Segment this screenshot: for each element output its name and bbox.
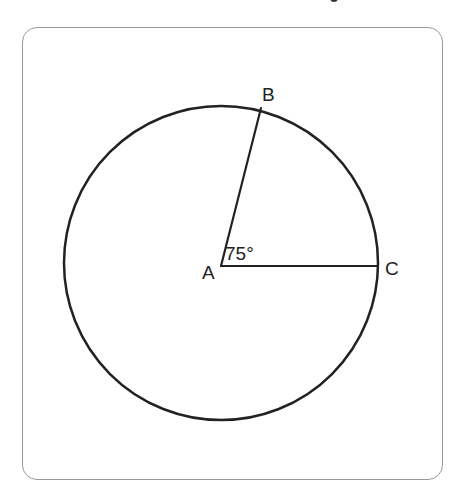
point-b-label: B <box>262 84 275 105</box>
point-a-label: A <box>202 262 215 283</box>
point-c-label: C <box>385 258 399 279</box>
angle-label: 75° <box>225 243 254 264</box>
circle-diagram: A B C 75° <box>0 0 460 503</box>
